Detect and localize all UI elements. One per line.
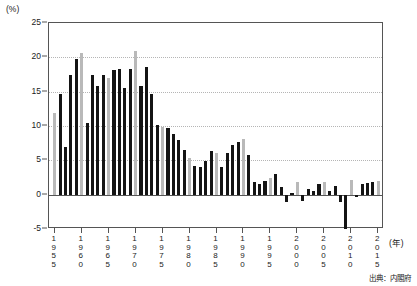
x-tick-mark-1955 xyxy=(54,228,55,233)
bar-1993 xyxy=(258,184,261,195)
chart-root: (%) 2520151050-5 19551960196519701975198… xyxy=(0,0,417,286)
x-tick-label-1955: 1955 xyxy=(49,235,59,269)
x-tick-label-2015: 2015 xyxy=(372,235,382,269)
bar-2002 xyxy=(307,189,310,194)
x-tick-mark-2000 xyxy=(296,228,297,233)
plot-area xyxy=(48,22,383,228)
x-tick-label-1980: 1980 xyxy=(184,235,194,269)
y-tick-label-0: 0 xyxy=(36,189,41,199)
bar-1977 xyxy=(172,134,175,194)
bar-1964 xyxy=(102,75,105,194)
y-tick-label-25: 25 xyxy=(32,17,41,27)
bar-1958 xyxy=(69,75,72,194)
bar-1982 xyxy=(199,167,202,195)
x-tick-label-2000: 2000 xyxy=(291,235,301,269)
bar-1969 xyxy=(129,69,132,195)
y-tick-label-10: 10 xyxy=(32,120,41,130)
y-tick-mark-25 xyxy=(42,22,47,23)
bar-2011 xyxy=(355,195,358,197)
bar-2015 xyxy=(377,181,380,195)
bar-1994 xyxy=(263,181,266,195)
x-tick-mark-1990 xyxy=(242,228,243,233)
bar-1976 xyxy=(166,128,169,195)
bar-1979 xyxy=(183,150,186,195)
x-tick-label-1975: 1975 xyxy=(157,235,167,269)
x-axis-unit-label: (年) xyxy=(389,236,404,248)
bar-1991 xyxy=(247,155,250,195)
y-axis-labels: 2520151050-5 xyxy=(0,22,46,228)
x-tick-label-1985: 1985 xyxy=(211,235,221,269)
y-tick-label--5: -5 xyxy=(33,223,41,233)
bar-2012 xyxy=(361,184,364,194)
bar-2007 xyxy=(334,186,337,195)
bar-2008 xyxy=(339,195,342,203)
x-tick-mark-2015 xyxy=(377,228,378,233)
bar-1963 xyxy=(96,86,99,194)
y-tick-mark-10 xyxy=(42,125,47,126)
x-axis: 1955196019651970197519801985199019952000… xyxy=(48,228,383,286)
bar-1987 xyxy=(226,153,229,195)
bar-1981 xyxy=(193,166,196,195)
x-tick-mark-1995 xyxy=(269,228,270,233)
x-tick-label-2010: 2010 xyxy=(345,235,355,269)
bar-1997 xyxy=(280,187,283,195)
bar-2013 xyxy=(366,183,369,195)
y-axis-unit-label: (%) xyxy=(6,4,19,14)
bar-1992 xyxy=(253,182,256,195)
x-tick-label-2005: 2005 xyxy=(318,235,328,269)
bar-1980 xyxy=(188,158,191,194)
bar-1986 xyxy=(220,167,223,195)
bar-1970 xyxy=(134,51,137,195)
bar-1968 xyxy=(123,88,126,195)
bar-1955 xyxy=(53,113,56,195)
bar-1974 xyxy=(156,125,159,194)
x-tick-mark-1980 xyxy=(189,228,190,233)
y-tick-mark-0 xyxy=(42,193,47,194)
bar-1957 xyxy=(64,147,67,194)
bar-1961 xyxy=(86,123,89,194)
bar-1996 xyxy=(274,174,277,195)
bar-1995 xyxy=(269,178,272,194)
bar-2010 xyxy=(350,180,353,194)
x-tick-mark-1985 xyxy=(216,228,217,233)
x-tick-label-1960: 1960 xyxy=(76,235,86,269)
x-tick-label-1990: 1990 xyxy=(237,235,247,269)
bar-2001 xyxy=(301,195,304,201)
bar-1959 xyxy=(75,59,78,195)
bar-1965 xyxy=(107,78,110,195)
bar-1999 xyxy=(290,193,293,194)
bar-2003 xyxy=(312,191,315,195)
y-tick-label-15: 15 xyxy=(32,86,41,96)
bar-1972 xyxy=(145,67,148,195)
y-tick-mark--5 xyxy=(42,228,47,229)
bar-series xyxy=(49,23,382,227)
x-tick-mark-1960 xyxy=(81,228,82,233)
bar-1971 xyxy=(139,86,142,194)
bar-1978 xyxy=(177,140,180,194)
bar-1983 xyxy=(204,161,207,195)
bar-1956 xyxy=(59,94,62,195)
bar-1973 xyxy=(150,94,153,195)
bar-2014 xyxy=(371,182,374,194)
bar-1975 xyxy=(161,127,164,195)
x-tick-mark-2010 xyxy=(350,228,351,233)
x-tick-mark-1965 xyxy=(108,228,109,233)
source-note: 出典：内閣府 xyxy=(369,272,411,283)
y-tick-mark-15 xyxy=(42,90,47,91)
bar-2004 xyxy=(317,184,320,194)
bar-1967 xyxy=(118,69,121,195)
x-tick-mark-1970 xyxy=(135,228,136,233)
bar-2006 xyxy=(328,191,331,195)
bar-1998 xyxy=(285,195,288,203)
bar-1966 xyxy=(112,70,115,194)
x-tick-mark-2005 xyxy=(323,228,324,233)
bar-1962 xyxy=(91,75,94,194)
y-tick-mark-5 xyxy=(42,159,47,160)
bar-1985 xyxy=(215,153,218,194)
x-tick-label-1995: 1995 xyxy=(264,235,274,269)
y-tick-label-20: 20 xyxy=(32,51,41,61)
bar-1989 xyxy=(237,142,240,194)
bar-1988 xyxy=(231,145,234,194)
bar-1984 xyxy=(210,151,213,194)
x-tick-mark-1975 xyxy=(162,228,163,233)
